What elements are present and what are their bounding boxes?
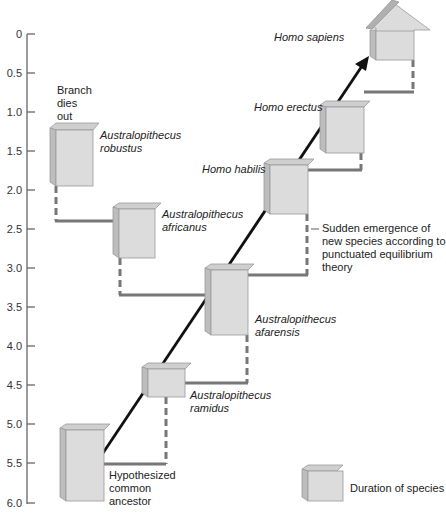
tick-label: 4.5: [0, 379, 22, 391]
box-homo-erectus: [320, 101, 370, 153]
box-africanus: [113, 203, 161, 258]
tick-label: 0: [0, 28, 22, 40]
tick-label: 2.5: [0, 223, 22, 235]
box-homo-habilis: [264, 159, 314, 214]
annotation-punctuated-equilibrium: Sudden emergence of new species accordin…: [322, 222, 446, 274]
tick-label: 3.0: [0, 262, 22, 274]
label-homo-erectus: Homo erectus: [254, 101, 322, 114]
tick-label: 6.0: [0, 497, 22, 509]
label-common-ancestor: Hypothesized common ancestor: [109, 469, 176, 508]
arrowhead-icon: [355, 56, 369, 71]
annotation-branch-dies-out: Branch dies out: [57, 84, 92, 123]
label-ramidus: Australopithecus ramidus: [190, 389, 271, 415]
tick-label: 5.0: [0, 418, 22, 430]
box-common-ancestor: [60, 424, 110, 501]
time-axis: [27, 34, 35, 504]
box-ramidus: [142, 363, 191, 397]
tick-label: 1.5: [0, 145, 22, 157]
label-homo-habilis: Homo habilis: [202, 163, 266, 176]
legend-label: Duration of species: [350, 482, 444, 495]
tick-label: 4.0: [0, 340, 22, 352]
label-robustus: Australopithecus robustus: [100, 129, 181, 155]
tick-label: 1.0: [0, 106, 22, 118]
box-homo-sapiens-arrow: [366, 0, 430, 60]
box-robustus: [50, 123, 99, 186]
legend-box-icon: [302, 465, 343, 501]
tick-label: 0.5: [0, 67, 22, 79]
label-homo-sapiens: Homo sapiens: [274, 31, 344, 44]
tick-label: 2.0: [0, 184, 22, 196]
box-afarensis: [205, 264, 254, 335]
label-afarensis: Australopithecus afarensis: [255, 313, 336, 339]
tick-label: 5.5: [0, 457, 22, 469]
tick-label: 3.5: [0, 301, 22, 313]
label-africanus: Australopithecus africanus: [162, 208, 243, 234]
